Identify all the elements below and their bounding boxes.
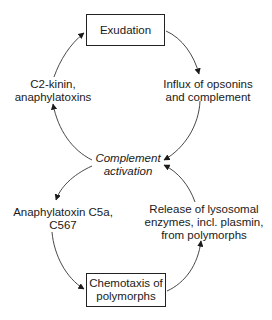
chemotaxis-label: Chemotaxis of polymorphs: [89, 277, 163, 303]
exudation-label: Exudation: [100, 24, 151, 37]
arrow-influx-to-activation: [164, 101, 200, 160]
arrow-anaphylatoxin-to-chemotaxis: [52, 232, 84, 289]
influx-label: Influx of opsonins and complement: [148, 78, 268, 104]
exudation-box: Exudation: [86, 14, 165, 46]
arrow-exudation-to-influx: [166, 31, 199, 74]
chemotaxis-box: Chemotaxis of polymorphs: [86, 273, 166, 307]
anaphylatoxin-label: Anaphylatoxin C5a, C567: [8, 206, 118, 232]
release-label: Release of lysosomal enzymes, incl. plas…: [142, 203, 266, 242]
arrow-activation-to-anaphylatoxin: [56, 166, 92, 200]
c2-kinin-label: C2-kinin, anaphylatoxins: [8, 78, 98, 104]
arrow-c2kinin-to-exudation: [54, 33, 84, 77]
arrow-chemotaxis-to-release: [167, 241, 201, 291]
complement-activation-label: Complement activation: [88, 152, 168, 178]
arrow-release-to-activation: [164, 165, 195, 202]
arrow-activation-to-c2kinin: [53, 104, 92, 160]
